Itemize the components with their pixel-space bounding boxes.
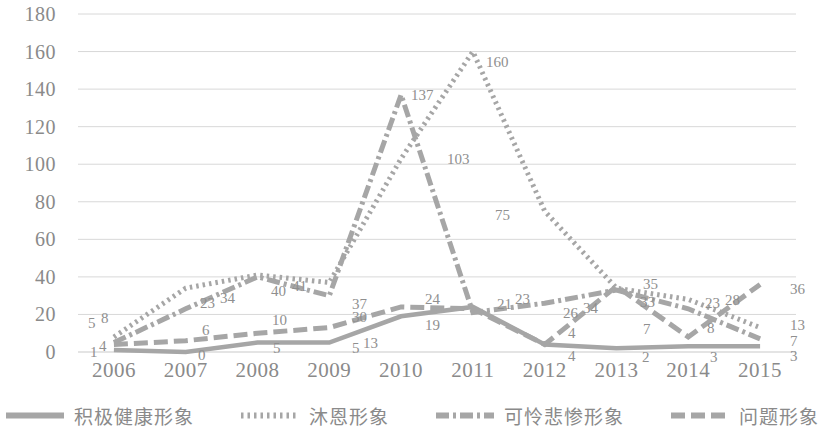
data-label: 75: [495, 208, 510, 223]
data-label: 103: [447, 152, 470, 167]
data-label: 5: [352, 341, 360, 356]
y-axis-tick: 60: [0, 229, 56, 249]
data-label: 4: [568, 326, 576, 341]
data-label: 28: [725, 293, 740, 308]
legend-item-1[interactable]: 沐恩形象: [240, 402, 389, 429]
legend-label: 可怜悲惨形象: [504, 402, 624, 429]
data-label: 23: [200, 296, 215, 311]
data-label: 34: [220, 291, 235, 306]
data-label: 40: [271, 284, 286, 299]
data-label: 6: [202, 323, 210, 338]
y-axis-tick: 180: [0, 4, 56, 24]
y-axis-tick: 140: [0, 79, 56, 99]
data-label: 7: [643, 322, 651, 337]
y-axis-tick: 100: [0, 154, 56, 174]
data-label: 8: [707, 321, 715, 336]
legend-item-2[interactable]: 可怜悲惨形象: [435, 402, 624, 429]
y-axis-tick: 120: [0, 117, 56, 137]
legend-item-0[interactable]: 积极健康形象: [5, 402, 194, 429]
legend-key-icon: [670, 411, 730, 420]
data-label: 10: [272, 313, 287, 328]
y-axis-tick: 20: [0, 304, 56, 324]
data-label: 36: [790, 282, 805, 297]
y-axis-tick: 80: [0, 192, 56, 212]
legend-label: 沐恩形象: [309, 402, 389, 429]
data-label: 7: [790, 334, 798, 349]
data-label: 21: [497, 297, 512, 312]
data-label: 4: [568, 349, 576, 364]
data-label: 137: [411, 88, 434, 103]
data-label: 13: [363, 336, 378, 351]
data-label: 160: [486, 55, 509, 70]
legend-key-icon: [435, 411, 495, 420]
data-label: 24: [425, 292, 440, 307]
data-label: 23: [705, 296, 720, 311]
data-label: 2: [642, 350, 650, 365]
data-label: 41: [292, 279, 307, 294]
legend-key-icon: [240, 411, 300, 420]
data-label: 33: [640, 295, 655, 310]
legend-key-icon: [5, 411, 65, 420]
chart-legend: 积极健康形象沐恩形象可怜悲惨形象问题形象: [0, 398, 824, 433]
data-label: 35: [643, 277, 658, 292]
data-label: 5: [88, 316, 96, 331]
data-label: 19: [425, 318, 440, 333]
data-label: 5: [273, 341, 281, 356]
data-label: 23: [515, 292, 530, 307]
data-label: 3: [710, 350, 718, 365]
chart-plot-area: [0, 0, 824, 395]
data-label: 4: [99, 339, 107, 354]
data-label: 3: [790, 349, 798, 364]
y-axis-tick: 40: [0, 267, 56, 287]
data-label: 26: [563, 306, 578, 321]
y-axis-tick: 160: [0, 42, 56, 62]
line-chart: 180160140120100806040200 200620072008200…: [0, 0, 824, 433]
data-label: 1: [90, 345, 98, 360]
data-label: 13: [790, 318, 805, 333]
y-axis-tick: 0: [0, 342, 56, 362]
legend-item-3[interactable]: 问题形象: [670, 402, 819, 429]
data-label: 34: [583, 301, 598, 316]
legend-label: 问题形象: [739, 402, 819, 429]
data-label: 8: [101, 311, 109, 326]
legend-label: 积极健康形象: [74, 402, 194, 429]
data-label: 0: [198, 348, 206, 363]
data-label: 30: [352, 310, 367, 325]
